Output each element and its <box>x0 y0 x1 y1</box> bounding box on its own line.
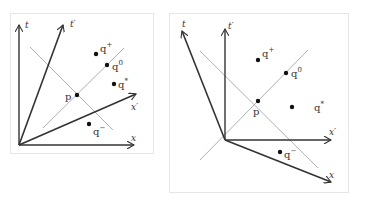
right-t-prime-label: t′ <box>228 21 234 31</box>
left-point-q-star <box>112 82 116 86</box>
right-point-q-zero <box>284 71 288 75</box>
right-point-q-minus <box>278 150 282 154</box>
left-point-q-minus <box>87 122 91 126</box>
right-x-label: x <box>329 170 334 180</box>
right-p-label: p <box>253 106 259 117</box>
right-point-p <box>256 99 260 103</box>
left-t-label: t <box>25 20 29 30</box>
left-point-q-plus <box>94 52 98 56</box>
left-t-prime-label: t′ <box>70 19 76 29</box>
right-point-q-plus <box>256 58 260 62</box>
spacetime-diagrams: t t′ x x′ q+ q0 q* p q− t t′ x x′ q+ <box>0 0 365 200</box>
right-t-label: t <box>182 19 186 29</box>
left-x-prime-label: x′ <box>131 102 138 112</box>
left-p-label: p <box>65 91 71 102</box>
right-x-prime-label: x′ <box>329 127 336 137</box>
right-point-q-star <box>290 105 294 109</box>
left-x-label: x <box>131 133 136 143</box>
left-point-p <box>75 93 79 97</box>
left-point-q-zero <box>105 63 109 67</box>
